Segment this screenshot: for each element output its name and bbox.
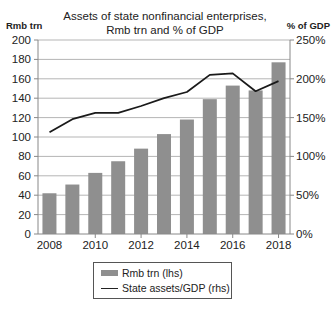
bar-2010 [88,173,102,234]
legend-item-line: State assets/GDP (rhs) [101,282,230,294]
x-tick-label: 2010 [82,239,108,251]
bar-2014 [180,120,194,234]
right-tick-label: 100% [296,150,325,162]
right-tick-label: 50% [296,189,319,201]
right-tick-label: 250% [296,34,325,46]
left-tick-label: 140 [12,92,31,104]
bar-swatch-icon [101,270,118,276]
legend-bar-label: Rmb trn (lhs) [122,267,183,279]
left-tick-label: 40 [18,189,31,201]
left-tick-label: 180 [12,53,31,65]
x-tick-label: 2008 [37,239,63,251]
bar-2008 [42,193,56,234]
bar-2016 [226,86,240,234]
legend-item-bar: Rmb trn (lhs) [101,267,183,279]
left-tick-label: 60 [18,170,31,182]
left-tick-label: 100 [12,131,31,143]
bar-2013 [157,134,171,234]
left-tick-label: 200 [12,34,31,46]
x-tick-label: 2018 [266,239,292,251]
left-tick-label: 20 [18,209,31,221]
bar-2017 [249,90,263,234]
x-tick-label: 2012 [128,239,154,251]
bar-2009 [65,185,79,234]
bar-2018 [272,62,286,234]
left-tick-label: 120 [12,112,31,124]
left-tick-label: 0 [25,228,31,240]
line-swatch-icon [101,288,118,289]
right-tick-label: 150% [296,112,325,124]
legend-line-label: State assets/GDP (rhs) [122,282,230,294]
x-tick-label: 2014 [174,239,200,251]
bar-2015 [203,99,217,234]
right-tick-label: 200% [296,73,325,85]
left-tick-label: 160 [12,73,31,85]
left-tick-label: 80 [18,150,31,162]
gdp-ratio-line [50,73,279,132]
legend: Rmb trn (lhs) State assets/GDP (rhs) [93,262,232,299]
bar-2012 [134,149,148,234]
x-tick-label: 2016 [220,239,246,251]
right-tick-label: 0% [296,228,313,240]
bar-2011 [111,161,125,234]
